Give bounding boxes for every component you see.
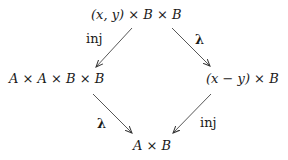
node-left: A × A × B × B	[9, 72, 104, 85]
edge-label-top-left: inj	[86, 32, 103, 45]
arrow-top-to-right	[172, 28, 210, 66]
node-bottom: A × B	[133, 139, 171, 152]
edge-label-bottom-left: λ	[97, 117, 106, 130]
edge-label-bottom-right: inj	[200, 116, 217, 129]
node-top: (x, y) × B × B	[91, 8, 182, 21]
node-right: (x − y) × B	[206, 72, 279, 85]
edge-label-top-right: λ	[195, 33, 204, 46]
